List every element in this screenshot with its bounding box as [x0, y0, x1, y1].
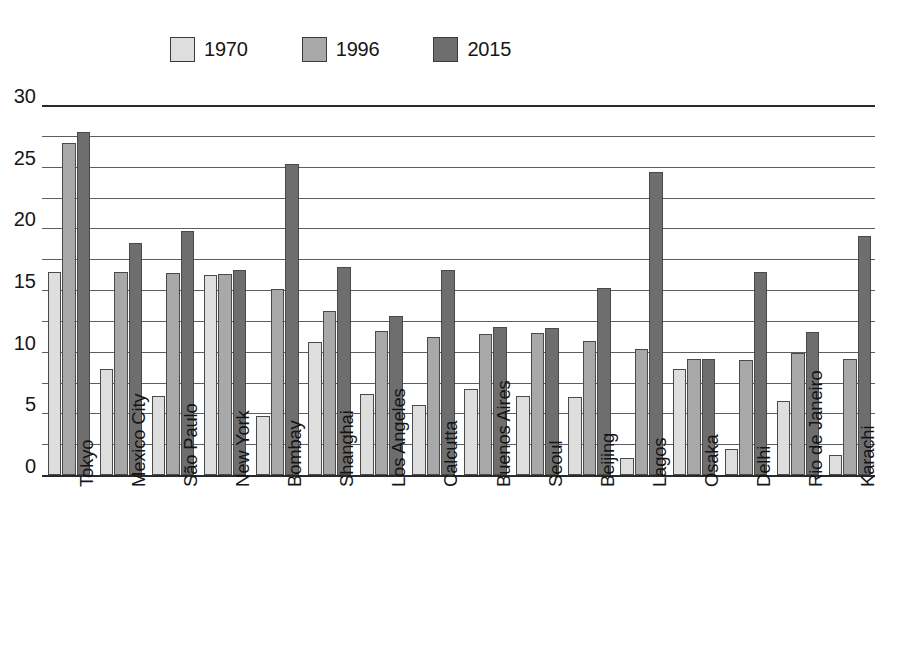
y-axis-tick-label: 30: [14, 86, 36, 106]
y-axis-tick-label: 5: [25, 394, 36, 414]
x-axis-category-label: Karachi: [857, 426, 879, 487]
x-axis-category-labels: TokyoMexico CitySão PauloNew YorkBombayS…: [42, 0, 875, 649]
x-axis-category-label: Lagos: [649, 438, 671, 487]
x-axis-category-label: Rio de Janeiro: [805, 371, 827, 488]
x-axis-category-label: Shanghai: [336, 410, 358, 487]
y-axis-tick-label: 0: [25, 456, 36, 476]
y-axis-tick-label: 15: [14, 271, 36, 291]
x-axis-category-label: Calcutta: [440, 421, 462, 487]
x-axis-category-label: Seoul: [545, 441, 567, 487]
x-axis-category-label: São Paulo: [180, 403, 202, 487]
x-axis-category-label: New York: [232, 410, 254, 487]
y-axis-tick-labels: 051015202530: [0, 0, 42, 649]
population-bar-chart: 1970 1996 2015 051015202530 TokyoMexico …: [0, 0, 913, 649]
x-axis-category-label: Delhi: [753, 446, 775, 487]
x-axis-category-label: Mexico City: [128, 394, 150, 487]
x-axis-category-label: Los Angeles: [388, 388, 410, 487]
plot-area: 051015202530 TokyoMexico CitySão PauloNe…: [0, 0, 913, 649]
x-axis-category-label: Osaka: [701, 435, 723, 487]
y-axis-tick-label: 10: [14, 333, 36, 353]
y-axis-tick-label: 25: [14, 148, 36, 168]
x-axis-category-label: Bombay: [284, 420, 306, 487]
y-axis-tick-label: 20: [14, 209, 36, 229]
x-axis-category-label: Buenos Aires: [493, 380, 515, 487]
x-axis-category-label: Beijing: [597, 433, 619, 487]
x-axis-category-label: Tokyo: [76, 440, 98, 487]
